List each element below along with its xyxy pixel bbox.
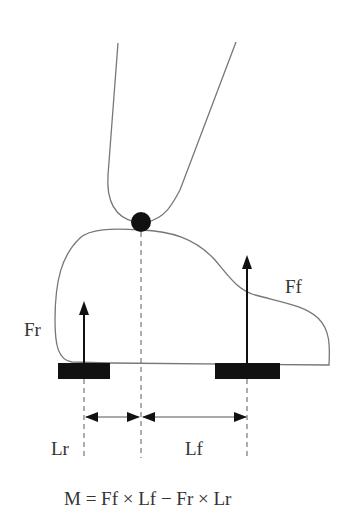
moment-equation: M = Ff × Lf − Fr × Lr xyxy=(64,488,232,509)
rear-length-arrowhead-left-icon xyxy=(85,412,98,422)
rear-length-label: Lr xyxy=(51,438,70,459)
front-length-arrowhead-left-icon xyxy=(142,412,155,422)
pivot-point xyxy=(131,212,151,232)
front-force-label: Ff xyxy=(285,276,303,297)
rear-tyre xyxy=(58,363,110,379)
hanger-outline xyxy=(108,42,236,222)
front-force-arrowhead-icon xyxy=(242,255,252,269)
diagram-canvas: Fr Ff Lr Lf M = Ff × Lf − Fr × Lr xyxy=(0,0,359,517)
front-tyre xyxy=(215,363,280,379)
rear-force-label: Fr xyxy=(24,319,42,340)
vehicle-body-outline xyxy=(55,229,329,365)
front-length-label: Lf xyxy=(185,438,204,459)
rear-length-arrowhead-right-icon xyxy=(127,412,140,422)
front-length-arrowhead-right-icon xyxy=(234,412,247,422)
rear-force-arrowhead-icon xyxy=(79,301,89,315)
